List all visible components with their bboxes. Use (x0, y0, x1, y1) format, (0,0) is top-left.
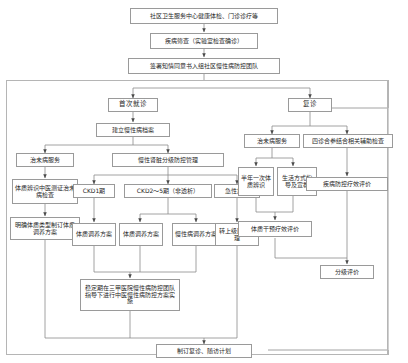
node-chronic-plan-ckd25-label: 慢性病调养方案 (175, 231, 217, 238)
node-preventive-service-left: 治未病服务 (16, 153, 74, 167)
node-stable-phase: 稳定期在三甲医院慢性病防控团队指导下进行中医慢性病防控方案实施 (80, 279, 180, 311)
node-ckd1: CKD1期 (73, 184, 115, 198)
node-entry-label: 社区卫生服务中心健康体检、门诊诊疗等 (133, 13, 275, 20)
node-entry: 社区卫生服务中心健康体检、门诊诊疗等 (130, 8, 278, 24)
node-consent-label: 签署知情同意书入组社区慢性病防控团队 (131, 63, 277, 70)
node-build-record-label: 建立慢性病档案 (99, 127, 167, 134)
node-revisit: 复诊 (288, 98, 332, 112)
node-ckd2-5: CKD2～5期（非透析） (124, 184, 212, 198)
node-constitution-effect-eval-label: 体质干预疗效评价 (241, 226, 309, 233)
node-plan-followup: 制订复诊、随访计划 (156, 344, 252, 358)
node-screening: 疾病筛查（实验室检查确诊） (150, 33, 258, 49)
node-constitution-plan-ckd25-label: 体质调养方案 (122, 231, 160, 238)
node-screening-label: 疾病筛查（实验室检查确诊） (153, 38, 255, 45)
node-consent: 签署知情同意书入组社区慢性病防控团队 (128, 58, 280, 74)
node-chronic-plan-ckd25: 慢性病调养方案 (172, 223, 220, 246)
node-build-record: 建立慢性病档案 (96, 123, 170, 137)
node-constitution-plan-ckd25: 体质调养方案 (119, 223, 163, 246)
node-four-exams-label: 四诊合参结合相关辅助检查 (306, 138, 390, 145)
node-constitution-plan-left-label: 明确体质类型制订体质调养方案 (13, 222, 77, 235)
node-ckd-grade-mgmt: 慢性肾脏分级防控管理 (112, 153, 224, 167)
node-stable-phase-label: 稳定期在三甲医院慢性病防控团队指导下进行中医慢性病防控方案实施 (83, 285, 177, 305)
node-disease-effect-eval-label: 疾病防控疗效评价 (309, 181, 385, 188)
node-ckd1-label: CKD1期 (76, 188, 112, 195)
node-first-visit: 首次就诊 (108, 98, 158, 112)
node-tcm-constitution-exam-label: 体质辨识中医测证治未病检查 (15, 185, 75, 198)
node-constitution-plan-ckd1: 体质调养方案 (72, 223, 116, 246)
node-graded-eval: 分级评价 (320, 265, 374, 279)
node-disease-effect-eval: 疾病防控疗效评价 (306, 177, 388, 191)
node-ckd-grade-mgmt-label: 慢性肾脏分级防控管理 (115, 157, 221, 164)
node-plan-followup-label: 制订复诊、随访计划 (159, 348, 249, 355)
node-constitution-plan-ckd1-label: 体质调养方案 (75, 231, 113, 238)
node-constitution-effect-eval: 体质干预疗效评价 (238, 221, 312, 237)
node-preventive-service-left-label: 治未病服务 (19, 157, 71, 164)
node-graded-eval-label: 分级评价 (323, 269, 371, 276)
node-constitution-plan-left: 明确体质类型制订体质调养方案 (10, 217, 80, 240)
flowchart-canvas: 社区卫生服务中心健康体检、门诊诊疗等 疾病筛查（实验室检查确诊） 签署知情同意书… (0, 0, 408, 363)
node-semiannual-constitution: 半年一次体质辨识 (238, 167, 274, 196)
node-ckd2-5-label: CKD2～5期（非透析） (127, 188, 209, 195)
node-semiannual-constitution-label: 半年一次体质辨识 (241, 175, 271, 188)
node-revisit-label: 复诊 (291, 101, 329, 108)
node-preventive-service-right: 治未病服务 (244, 134, 300, 148)
node-preventive-service-right-label: 治未病服务 (247, 138, 297, 145)
node-four-exams: 四诊合参结合相关辅助检查 (303, 134, 393, 148)
node-tcm-constitution-exam: 体质辨识中医测证治未病检查 (12, 179, 78, 204)
node-first-visit-label: 首次就诊 (111, 101, 155, 108)
